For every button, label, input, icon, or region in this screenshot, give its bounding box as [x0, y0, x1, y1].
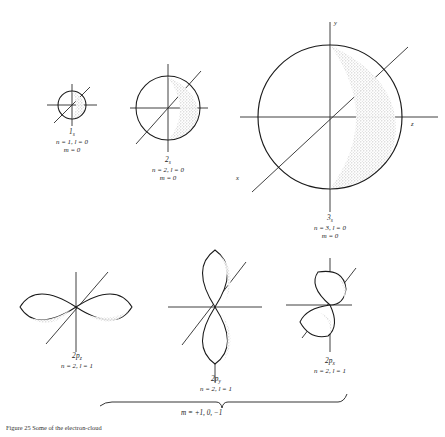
orbital-2s: [130, 64, 208, 152]
orbital-label-1s: 1s: [42, 128, 102, 138]
axis-label-y: y: [334, 19, 337, 26]
quantum-numbers-2s: n = 2, l = 0: [138, 166, 198, 174]
lobe-2pz-left: [20, 294, 76, 320]
quantum-numbers-3s: n = 3, l = 0: [300, 224, 360, 232]
label-3s: 3s n = 3, l = 0 m = 0: [300, 214, 360, 240]
axes-1s: [47, 84, 97, 126]
magnetic-number-1s: m = 0: [42, 146, 102, 154]
magnetic-number-3s: m = 0: [300, 232, 360, 240]
orbital-label-2pz: 2pz: [46, 352, 108, 362]
quantum-numbers-2px: n = 2, l = 1: [299, 367, 361, 375]
orbital-label-2s: 2s: [138, 156, 198, 166]
lobe-2pz-right: [76, 294, 132, 320]
orbital-label-2py: 2py: [185, 375, 247, 385]
orbital-diagram: [0, 0, 445, 437]
orbital-2px: [286, 258, 356, 352]
axis-label-x: x: [236, 174, 239, 181]
quantum-numbers-1s: n = 1, l = 0: [42, 138, 102, 146]
label-2py: 2py n = 2, l = 1: [185, 375, 247, 393]
orbital-3s: [240, 22, 438, 212]
figure-caption: Figure 25 Some of the electron-cloud: [6, 424, 102, 437]
orbital-2py: [168, 250, 262, 382]
axis-label-z: z: [411, 120, 414, 127]
lobe-2py-top: [203, 250, 228, 307]
shading-2s: [168, 77, 198, 141]
orbital-label-3s: 3s: [300, 214, 360, 224]
orbital-1s: [47, 84, 97, 126]
quantum-numbers-2py: n = 2, l = 1: [185, 385, 247, 393]
lobe-2py-bottom: [203, 307, 228, 364]
label-2pz: 2pz n = 2, l = 1: [46, 352, 108, 370]
brace-magnetic-numbers: m = +1, 0, −1: [181, 409, 222, 417]
quantum-numbers-2pz: n = 2, l = 1: [46, 362, 108, 370]
lobe-2px-upper: [315, 271, 346, 305]
brace: [100, 394, 347, 408]
orbital-label-2px: 2px: [299, 357, 361, 367]
orbital-2pz: [20, 272, 132, 352]
label-2s: 2s n = 2, l = 0 m = 0: [138, 156, 198, 182]
label-2px: 2px n = 2, l = 1: [299, 357, 361, 375]
magnetic-number-2s: m = 0: [138, 174, 198, 182]
label-1s: 1s n = 1, l = 0 m = 0: [42, 128, 102, 154]
